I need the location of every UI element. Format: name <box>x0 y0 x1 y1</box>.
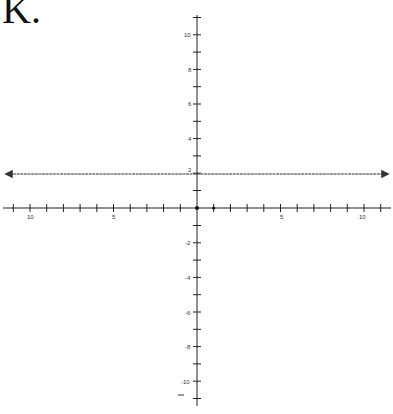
y-tick-label: -2 <box>185 240 191 246</box>
coordinate-plane: 10 5 5 10 10 8 6 4 2 -2 -4 -6 -8 -10 <box>0 0 393 414</box>
x-tick-label: 5 <box>112 214 116 220</box>
y-tick-label: 6 <box>188 101 192 107</box>
y-tick-label: -10 <box>181 379 190 385</box>
y-tick-label: -4 <box>185 275 191 281</box>
y-tick-label: -8 <box>185 344 191 350</box>
y-tick-label: 4 <box>188 136 192 142</box>
x-tick-label: 10 <box>27 214 34 220</box>
y-tick-label: 2 <box>188 167 192 173</box>
x-tick-label: 10 <box>359 214 366 220</box>
origin-point <box>195 206 199 210</box>
x-tick-label: 5 <box>280 214 284 220</box>
point-1-0 <box>212 206 215 209</box>
y-tick-label: -6 <box>185 310 191 316</box>
y-tick-label: 10 <box>184 32 191 38</box>
y-tick-label: 8 <box>188 67 192 73</box>
